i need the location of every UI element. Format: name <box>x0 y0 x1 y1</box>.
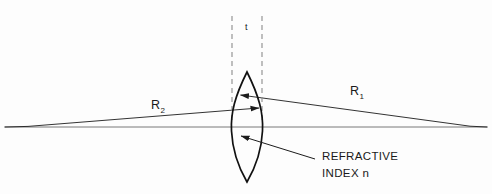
radius-r1-subscript: 1 <box>360 92 365 101</box>
thickness-label: t <box>245 22 248 32</box>
radius-r2-label: R2 <box>151 98 166 115</box>
radius-r1-label: R1 <box>350 84 365 101</box>
radius-line-r1 <box>241 95 471 126</box>
diagram-canvas: R1 R2 t REFRACTIVE INDEX n <box>0 0 492 194</box>
radius-line-r2 <box>28 108 259 126</box>
r2-vertex-tail <box>5 126 28 127</box>
radius-r2-subscript: 2 <box>161 106 166 115</box>
refractive-index-leader <box>241 136 315 159</box>
refractive-index-caption-line2: INDEX n <box>322 167 369 179</box>
refractive-index-caption-line1: REFRACTIVE <box>322 150 398 162</box>
lens-diagram-figure: R1 R2 t REFRACTIVE INDEX n <box>0 0 492 194</box>
radius-r1-base: R <box>350 84 359 98</box>
radius-r2-base: R <box>151 98 160 112</box>
